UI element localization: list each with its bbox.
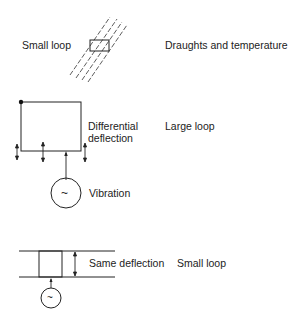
large-loop-label: Large loop	[165, 120, 215, 132]
double-arrow-icon	[42, 142, 45, 162]
ac-source-icon: ~	[61, 187, 68, 199]
differential-label-1: Differential	[88, 120, 138, 132]
small-loop-label-2: Small loop	[177, 257, 226, 269]
double-arrow-icon	[84, 143, 87, 162]
small-loop-rect-2	[39, 251, 62, 277]
draughts-label: Draughts and temperature	[165, 39, 288, 51]
up-arrow-icon	[64, 151, 67, 156]
draught-line	[88, 25, 127, 82]
same-deflection-arrow-icon	[74, 252, 77, 276]
draught-lines	[70, 17, 127, 82]
loop-corner-dot	[19, 100, 23, 104]
up-arrow-icon	[50, 278, 53, 282]
same-deflection-label: Same deflection	[89, 257, 164, 269]
deflection-arrows	[16, 142, 87, 162]
small-loop-label: Small loop	[22, 39, 71, 51]
vibration-label: Vibration	[89, 187, 130, 199]
differential-label-2: deflection	[88, 132, 133, 144]
large-loop-rect	[21, 102, 81, 151]
double-arrow-icon	[16, 144, 19, 160]
ac-source-icon-2: ~	[47, 292, 53, 304]
